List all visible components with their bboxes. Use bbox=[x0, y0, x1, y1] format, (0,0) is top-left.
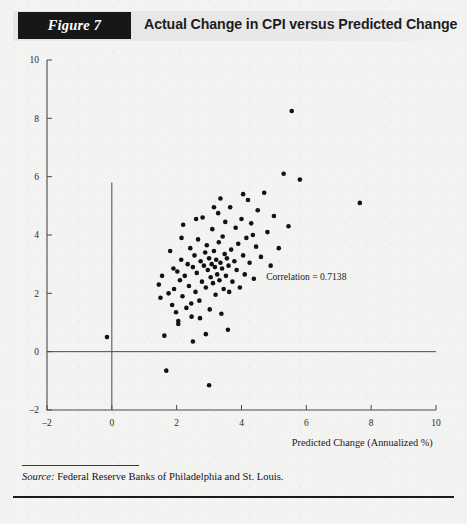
data-point bbox=[223, 220, 228, 225]
y-tick-label: 8 bbox=[34, 114, 39, 124]
data-point bbox=[286, 224, 291, 229]
data-point bbox=[203, 250, 208, 255]
data-point bbox=[230, 279, 235, 284]
data-point bbox=[234, 268, 239, 273]
x-tick-label: 2 bbox=[174, 418, 179, 428]
data-point bbox=[252, 276, 257, 281]
data-point bbox=[198, 316, 203, 321]
data-point bbox=[216, 211, 221, 216]
data-point bbox=[247, 260, 252, 265]
data-point bbox=[241, 192, 246, 197]
data-point bbox=[239, 217, 244, 222]
data-point bbox=[358, 201, 363, 206]
data-point bbox=[236, 241, 241, 246]
data-point bbox=[202, 263, 207, 268]
data-point bbox=[164, 368, 169, 373]
source-text: Federal Reserve Banks of Philadelphia an… bbox=[55, 471, 284, 482]
data-point bbox=[232, 259, 237, 264]
data-point bbox=[162, 333, 167, 338]
data-point bbox=[226, 327, 231, 332]
data-point bbox=[268, 263, 273, 268]
x-tick-label: 4 bbox=[239, 418, 244, 428]
scatter-plot: –20246810–20246810Predicted Change (Annu… bbox=[0, 0, 467, 524]
data-point bbox=[217, 278, 222, 283]
data-point bbox=[215, 272, 220, 277]
data-point bbox=[226, 263, 231, 268]
data-point bbox=[242, 272, 247, 277]
data-point bbox=[218, 196, 223, 201]
data-point bbox=[194, 217, 199, 222]
data-point bbox=[218, 260, 223, 265]
data-point bbox=[210, 227, 215, 232]
data-point bbox=[254, 244, 259, 249]
data-point bbox=[220, 234, 225, 239]
data-point bbox=[228, 205, 233, 210]
data-point bbox=[208, 275, 213, 280]
data-point bbox=[168, 249, 173, 254]
data-point bbox=[184, 306, 189, 311]
data-point bbox=[175, 269, 180, 274]
data-point bbox=[220, 266, 225, 271]
data-point bbox=[213, 265, 218, 270]
data-point bbox=[246, 198, 251, 203]
source-note: Source: Federal Reserve Banks of Philade… bbox=[22, 471, 283, 482]
data-point bbox=[193, 290, 198, 295]
data-point bbox=[241, 253, 246, 258]
data-point bbox=[105, 335, 110, 340]
data-point bbox=[180, 294, 185, 299]
data-point bbox=[204, 332, 209, 337]
data-point bbox=[194, 271, 199, 276]
data-point bbox=[160, 274, 165, 279]
bottom-rule bbox=[13, 496, 454, 498]
correlation-annotation: Correlation = 0.7138 bbox=[266, 271, 346, 282]
data-point bbox=[205, 243, 210, 248]
data-point bbox=[181, 222, 186, 227]
x-tick-label: 8 bbox=[369, 418, 374, 428]
data-point bbox=[176, 322, 181, 327]
data-point bbox=[217, 240, 222, 245]
data-point bbox=[259, 255, 264, 260]
y-tick-label: 0 bbox=[34, 347, 39, 357]
data-point bbox=[207, 307, 212, 312]
data-point bbox=[182, 274, 187, 279]
data-point bbox=[289, 109, 294, 114]
data-point bbox=[222, 252, 227, 257]
data-point bbox=[251, 233, 256, 238]
data-point bbox=[187, 284, 192, 289]
x-tick-label: 10 bbox=[431, 418, 441, 428]
data-point bbox=[198, 259, 203, 264]
data-point bbox=[179, 257, 184, 262]
data-point bbox=[227, 290, 232, 295]
source-divider bbox=[22, 465, 139, 466]
data-point bbox=[189, 314, 194, 319]
y-tick-label: 6 bbox=[34, 172, 39, 182]
data-point bbox=[207, 256, 212, 261]
y-tick-label: 10 bbox=[30, 55, 40, 65]
x-tick-label: 0 bbox=[109, 418, 114, 428]
data-point bbox=[219, 311, 224, 316]
data-point bbox=[196, 237, 201, 242]
data-point bbox=[192, 253, 197, 258]
data-point bbox=[171, 266, 176, 271]
scatter-plot-canvas: –20246810–20246810Predicted Change (Annu… bbox=[0, 0, 467, 524]
data-point bbox=[205, 268, 210, 273]
data-point bbox=[214, 257, 219, 262]
data-point bbox=[191, 339, 196, 344]
data-point bbox=[197, 298, 202, 303]
data-point bbox=[189, 301, 194, 306]
data-point bbox=[272, 214, 277, 219]
data-point bbox=[204, 285, 209, 290]
data-point bbox=[200, 215, 205, 220]
data-point bbox=[238, 285, 243, 290]
data-point bbox=[179, 236, 184, 241]
data-point bbox=[212, 249, 217, 254]
data-point bbox=[178, 278, 183, 283]
data-point bbox=[191, 265, 196, 270]
data-point bbox=[158, 295, 163, 300]
data-point bbox=[185, 262, 190, 267]
data-point bbox=[221, 287, 226, 292]
data-point bbox=[225, 256, 230, 261]
data-point bbox=[276, 246, 281, 251]
data-point bbox=[244, 236, 249, 241]
data-point bbox=[211, 281, 216, 286]
